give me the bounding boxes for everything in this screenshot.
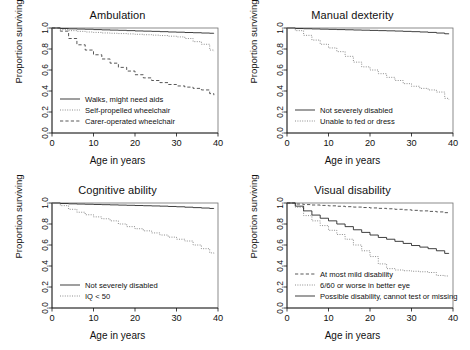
legend-label: Carer-operated wheelchair xyxy=(85,117,175,126)
legend-label: Walks, might need aids xyxy=(85,95,163,104)
survival-curve-figure: Ambulation Proportion surviving 0.00.20.… xyxy=(0,0,470,350)
legend-label: Unable to fed or dress xyxy=(320,117,395,126)
legend-label: Not severely disabled xyxy=(320,106,393,115)
svg-text:0.4: 0.4 xyxy=(40,260,50,272)
svg-text:30: 30 xyxy=(171,138,181,148)
svg-text:0: 0 xyxy=(49,138,54,148)
svg-text:0.6: 0.6 xyxy=(40,64,50,76)
panel-visual-disability: Visual disability Proportion surviving 0… xyxy=(235,175,470,350)
svg-text:0.4: 0.4 xyxy=(40,85,50,97)
panel-manual-dexterity: Manual dexterity Proportion surviving 0.… xyxy=(235,0,470,175)
legend-label: Not severely disabled xyxy=(85,281,158,290)
svg-text:20: 20 xyxy=(130,138,140,148)
panel-cognitive-ability: Cognitive ability Proportion surviving 0… xyxy=(0,175,235,350)
plot-area: 0.00.20.40.60.81.0010203040Not severely … xyxy=(0,175,235,350)
svg-text:0: 0 xyxy=(284,313,289,323)
x-axis-label: Age in years xyxy=(235,155,470,166)
svg-text:0.2: 0.2 xyxy=(40,281,50,293)
svg-text:20: 20 xyxy=(130,313,140,323)
plot-area: 0.00.20.40.60.81.0010203040Walks, might … xyxy=(0,0,235,175)
svg-text:0.6: 0.6 xyxy=(275,239,285,251)
legend-label: Self-propelled wheelchair xyxy=(85,106,171,115)
svg-text:10: 10 xyxy=(88,138,98,148)
svg-text:0.4: 0.4 xyxy=(275,260,285,272)
svg-text:0.6: 0.6 xyxy=(40,239,50,251)
svg-text:0.8: 0.8 xyxy=(40,218,50,230)
legend-label: At most mild disability xyxy=(320,270,393,279)
svg-text:30: 30 xyxy=(406,138,416,148)
svg-text:0.8: 0.8 xyxy=(275,218,285,230)
svg-text:0.6: 0.6 xyxy=(275,64,285,76)
svg-text:1.0: 1.0 xyxy=(40,22,50,34)
svg-text:1.0: 1.0 xyxy=(275,197,285,209)
svg-text:0.4: 0.4 xyxy=(275,85,285,97)
svg-text:40: 40 xyxy=(448,138,458,148)
panel-ambulation: Ambulation Proportion surviving 0.00.20.… xyxy=(0,0,235,175)
legend-label: 6/60 or worse in better eye xyxy=(320,281,410,290)
svg-text:30: 30 xyxy=(406,313,416,323)
svg-text:1.0: 1.0 xyxy=(40,197,50,209)
svg-text:0.2: 0.2 xyxy=(275,281,285,293)
svg-text:10: 10 xyxy=(323,138,333,148)
svg-text:40: 40 xyxy=(213,138,223,148)
svg-text:20: 20 xyxy=(365,138,375,148)
svg-text:0.8: 0.8 xyxy=(275,43,285,55)
svg-text:0: 0 xyxy=(284,138,289,148)
legend-label: Possible disability, cannot test or miss… xyxy=(320,292,457,301)
plot-area: 0.00.20.40.60.81.0010203040At most mild … xyxy=(235,175,470,350)
svg-text:40: 40 xyxy=(448,313,458,323)
x-axis-label: Age in years xyxy=(0,330,235,341)
x-axis-label: Age in years xyxy=(235,330,470,341)
svg-text:0.2: 0.2 xyxy=(40,106,50,118)
legend-label: IQ < 50 xyxy=(85,292,110,301)
svg-text:1.0: 1.0 xyxy=(275,22,285,34)
svg-text:10: 10 xyxy=(323,313,333,323)
svg-text:20: 20 xyxy=(365,313,375,323)
svg-text:0: 0 xyxy=(49,313,54,323)
svg-text:30: 30 xyxy=(171,313,181,323)
svg-text:0.8: 0.8 xyxy=(40,43,50,55)
plot-area: 0.00.20.40.60.81.0010203040Not severely … xyxy=(235,0,470,175)
x-axis-label: Age in years xyxy=(0,155,235,166)
svg-text:40: 40 xyxy=(213,313,223,323)
svg-text:10: 10 xyxy=(88,313,98,323)
svg-text:0.2: 0.2 xyxy=(275,106,285,118)
